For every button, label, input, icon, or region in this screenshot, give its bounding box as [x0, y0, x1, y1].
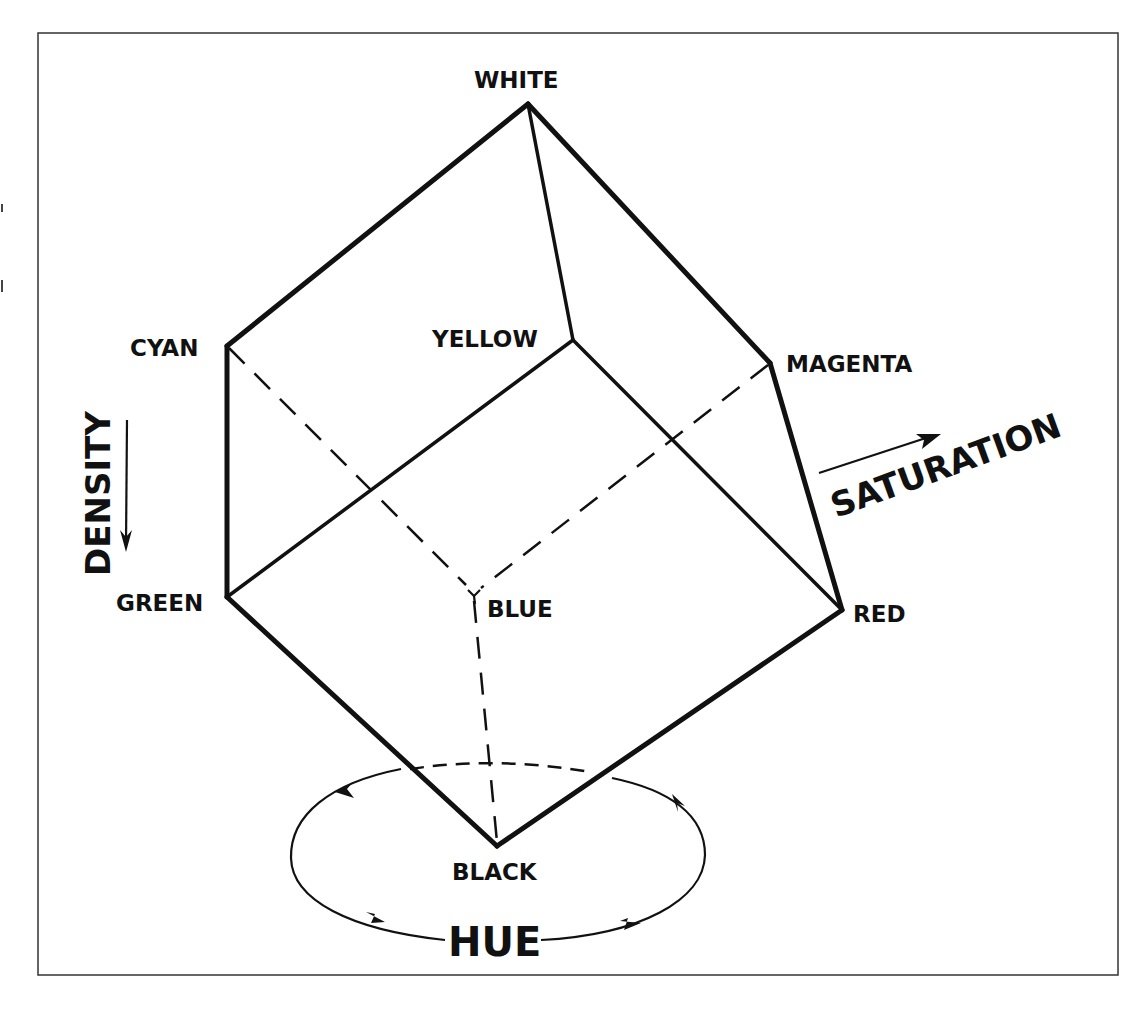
saturation-axis: SATURATION — [819, 405, 1066, 525]
label-green: GREEN — [116, 590, 203, 616]
visible-edges — [227, 104, 842, 846]
hue-label: HUE — [448, 919, 541, 965]
label-blue: BLUE — [487, 596, 553, 622]
density-arrow-shaft — [126, 420, 127, 545]
edge-magenta-blue — [481, 365, 768, 588]
label-black: BLACK — [452, 859, 538, 885]
edge-cyan-blue — [229, 348, 466, 585]
edge-blue-black — [474, 601, 497, 842]
diagram-frame — [38, 33, 1118, 975]
hue-arc-left — [291, 769, 445, 940]
edge-white-yellow — [528, 104, 573, 340]
edge-red-black — [497, 610, 842, 846]
label-yellow: YELLOW — [431, 326, 538, 352]
hue-arrow-head-lower-left-icon — [366, 912, 385, 923]
edge-yellow-green — [227, 340, 573, 597]
label-magenta: MAGENTA — [786, 351, 912, 377]
label-red: RED — [853, 601, 906, 627]
hidden-edges — [229, 348, 768, 842]
label-white: WHITE — [474, 67, 559, 93]
hue-hidden-arc — [410, 763, 590, 772]
label-cyan: CYAN — [130, 335, 198, 361]
density-axis: DENSITY — [78, 411, 132, 576]
edge-green-black — [227, 597, 497, 846]
color-cube-diagram: WHITE CYAN YELLOW MAGENTA GREEN BLUE RED… — [0, 0, 1142, 1011]
edge-white-magenta — [528, 104, 770, 363]
edge-white-cyan — [227, 104, 528, 346]
vertex-labels: WHITE CYAN YELLOW MAGENTA GREEN BLUE RED… — [116, 67, 912, 885]
blue-vertex-mark — [468, 590, 480, 604]
saturation-label: SATURATION — [825, 405, 1066, 525]
density-label: DENSITY — [78, 411, 118, 576]
